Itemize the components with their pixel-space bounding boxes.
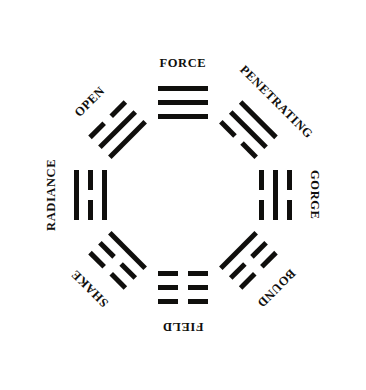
trigram-line-broken (229, 241, 268, 280)
line-segment (188, 285, 208, 290)
trigram-lines (258, 170, 292, 220)
trigram-line-broken (158, 285, 208, 290)
trigram-label: FORCE (160, 56, 207, 71)
line-segment (240, 141, 258, 159)
line-segment (188, 299, 208, 304)
trigram-lines (88, 230, 147, 289)
line-segment (259, 170, 264, 190)
trigram-lines (158, 270, 208, 304)
trigram-lines (158, 86, 208, 120)
line-segment (158, 86, 208, 91)
trigram-line-broken (287, 170, 292, 220)
trigram-line-solid (273, 170, 278, 220)
line-segment (158, 114, 208, 119)
trigram-line-broken (158, 271, 208, 276)
line-segment (119, 262, 137, 280)
line-segment (239, 272, 257, 290)
trigram-lines (218, 230, 277, 289)
line-segment (158, 299, 178, 304)
trigram-line-solid (102, 170, 107, 220)
trigram-line-solid (229, 110, 268, 149)
trigram-label: SHAKE (68, 267, 112, 311)
trigram-line-broken (259, 170, 264, 220)
line-segment (88, 251, 106, 269)
line-segment (158, 271, 178, 276)
trigram-line-solid (74, 170, 79, 220)
line-segment (98, 241, 116, 259)
trigram-label: OPEN (71, 83, 108, 120)
line-segment (273, 170, 278, 220)
line-segment (102, 170, 107, 220)
bagua-diagram: FORCEPENETRATINGGORGEBOUNDFIELDSHAKERADI… (0, 0, 366, 390)
trigram-line-solid (219, 231, 258, 270)
trigram-line-broken (88, 170, 93, 220)
line-segment (250, 241, 268, 259)
line-segment (158, 285, 178, 290)
line-segment (219, 120, 237, 138)
trigram-label: RADIANCE (44, 159, 59, 231)
trigram-line-solid (158, 100, 208, 105)
line-segment (287, 200, 292, 220)
trigram-line-solid (98, 110, 137, 149)
trigram-label: FIELD (162, 320, 203, 335)
line-segment (88, 170, 93, 190)
trigram-line-solid (108, 120, 147, 159)
trigram-line-solid (108, 231, 147, 270)
trigram-line-solid (158, 86, 208, 91)
line-segment (88, 200, 93, 220)
trigram-line-solid (158, 114, 208, 119)
trigram-lines (74, 170, 108, 220)
line-segment (229, 262, 247, 280)
trigram-lines (218, 100, 277, 159)
line-segment (108, 231, 147, 270)
line-segment (109, 272, 127, 290)
trigram-label: GORGE (308, 170, 323, 220)
line-segment (109, 100, 127, 118)
trigram-lines (88, 100, 147, 159)
trigram-label: BOUND (254, 266, 299, 311)
line-segment (287, 170, 292, 190)
line-segment (188, 271, 208, 276)
line-segment (259, 200, 264, 220)
line-segment (219, 231, 258, 270)
line-segment (229, 110, 268, 149)
line-segment (98, 110, 137, 149)
line-segment (108, 120, 147, 159)
line-segment (260, 251, 278, 269)
trigram-line-broken (219, 120, 258, 159)
line-segment (158, 100, 208, 105)
line-segment (74, 170, 79, 220)
trigram-line-broken (98, 241, 137, 280)
line-segment (88, 121, 106, 139)
trigram-line-broken (158, 299, 208, 304)
